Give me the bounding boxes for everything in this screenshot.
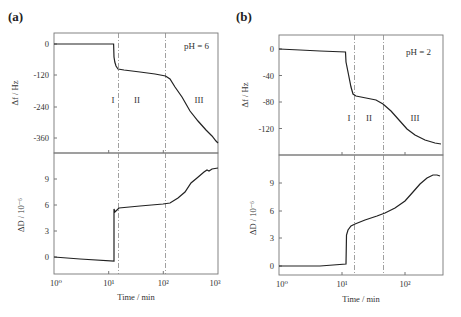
- svg-text:10⁰: 10⁰: [50, 278, 63, 288]
- svg-text:10²: 10²: [399, 279, 411, 289]
- svg-text:-120: -120: [258, 124, 274, 134]
- panel-a-label: (a): [8, 9, 23, 24]
- panel-b-top-yticks: 0 -40 -80 -120: [258, 44, 282, 134]
- svg-text:10¹: 10¹: [103, 278, 115, 288]
- svg-text:-120: -120: [33, 70, 49, 80]
- svg-text:3: 3: [270, 233, 274, 243]
- svg-text:10⁰: 10⁰: [276, 279, 289, 289]
- svg-text:0: 0: [270, 44, 274, 54]
- panel-a-bottom-yticks: 9 6 3 0: [45, 174, 57, 262]
- panel-b-bottom-ylabel: ΔD / 10⁻⁶: [248, 201, 258, 235]
- svg-text:9: 9: [45, 174, 49, 184]
- svg-text:0: 0: [270, 261, 274, 271]
- svg-text:6: 6: [45, 200, 49, 210]
- panel-a-xlabel: Time / min: [117, 292, 155, 302]
- svg-text:10¹: 10¹: [336, 279, 348, 289]
- svg-text:I: I: [348, 113, 351, 123]
- panel-b-dissipation-curve: [279, 175, 440, 266]
- svg-text:-80: -80: [263, 97, 274, 107]
- svg-text:3: 3: [45, 226, 49, 236]
- panel-b-xlabel: Time / min: [342, 294, 380, 304]
- svg-text:III: III: [411, 113, 420, 123]
- svg-text:III: III: [195, 95, 204, 105]
- panel-a: (a) 0 -120 -240 -360 Δf / Hz 9 6 3: [8, 9, 221, 302]
- panel-b-ph-annotation: pH = 2: [406, 47, 431, 57]
- svg-text:-240: -240: [33, 102, 49, 112]
- panel-b-label: (b): [236, 9, 252, 24]
- svg-text:10³: 10³: [209, 278, 221, 288]
- panel-b-frequency-curve: [279, 49, 441, 144]
- svg-text:9: 9: [270, 178, 274, 188]
- panel-b-top-ylabel: Δf / Hz: [240, 82, 250, 107]
- panel-b: (b) 0 -40 -80 -120 Δf / Hz 9 6 3 0 ΔD /: [236, 9, 443, 304]
- panel-a-dissipation-curve: [54, 168, 218, 261]
- panel-b-bottom-yticks: 9 6 3 0: [270, 178, 282, 271]
- panel-a-bottom-ylabel: ΔD / 10⁻⁶: [16, 198, 26, 232]
- svg-text:I: I: [112, 95, 115, 105]
- panel-a-bottom-frame: [54, 153, 218, 274]
- panel-a-top-yticks: 0 -120 -240 -360: [33, 39, 57, 143]
- svg-text:0: 0: [45, 252, 49, 262]
- panel-a-xticks: 10⁰ 10¹ 10² 10³: [50, 150, 221, 288]
- svg-text:6: 6: [270, 206, 274, 216]
- svg-text:II: II: [366, 113, 372, 123]
- panel-a-top-frame: [54, 33, 218, 153]
- panel-a-top-ylabel: Δf / Hz: [10, 80, 20, 105]
- svg-text:10²: 10²: [158, 278, 170, 288]
- svg-text:0: 0: [45, 39, 49, 49]
- panel-b-xticks: 10⁰ 10¹ 10²: [276, 152, 411, 289]
- svg-text:-40: -40: [263, 71, 274, 81]
- panel-a-frequency-curve: [54, 44, 218, 143]
- svg-text:II: II: [134, 95, 140, 105]
- figure: (a) 0 -120 -240 -360 Δf / Hz 9 6 3: [0, 0, 461, 317]
- panel-b-bottom-frame: [279, 155, 443, 275]
- svg-text:-360: -360: [33, 133, 49, 143]
- panel-a-ph-annotation: pH = 6: [184, 41, 210, 51]
